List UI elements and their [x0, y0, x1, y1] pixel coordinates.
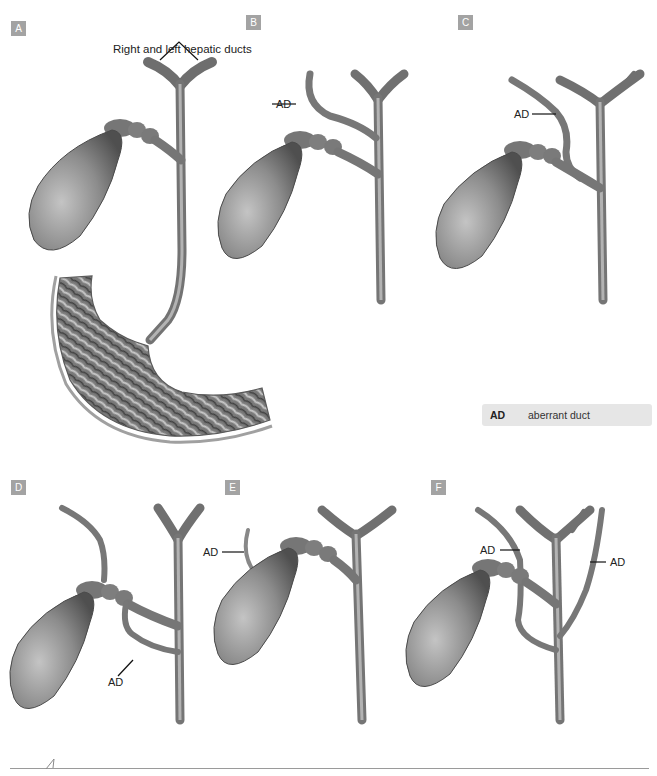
- ad-label-c: AD: [514, 108, 529, 120]
- footer-tick-mark: [44, 756, 64, 770]
- panel-label-a: A: [11, 21, 26, 36]
- leader-line: [118, 660, 133, 676]
- ad-label-f-left: AD: [480, 544, 495, 556]
- ad-label-e: AD: [203, 546, 218, 558]
- panel-c-art: [436, 74, 640, 300]
- anatomy-illustration: [0, 0, 657, 776]
- ad-label-b: AD: [276, 98, 291, 110]
- gallbladder: [10, 592, 94, 709]
- panel-f-art: [406, 510, 602, 720]
- ad-label-d: AD: [108, 676, 123, 688]
- hepatic-ducts-caption: Right and left hepatic ducts: [113, 43, 252, 55]
- panel-b-art: [218, 74, 404, 300]
- gallbladder: [29, 130, 122, 250]
- gallbladder: [406, 570, 490, 687]
- ad-label-f-right: AD: [610, 556, 625, 568]
- legend-abbr: AD: [490, 404, 505, 426]
- panel-label-b: B: [246, 15, 261, 30]
- gallbladder: [218, 142, 302, 259]
- panel-label-f: F: [431, 480, 446, 495]
- legend: AD aberrant duct: [482, 404, 652, 426]
- legend-description: aberrant duct: [528, 404, 590, 426]
- panel-label-c: C: [458, 15, 473, 30]
- panel-e-art: [214, 510, 392, 720]
- panel-label-e: E: [225, 480, 240, 495]
- gallbladder: [436, 152, 522, 269]
- panel-label-d: D: [11, 480, 26, 495]
- gallbladder: [214, 548, 298, 665]
- panel-d-art: [10, 508, 200, 720]
- footer-divider: [10, 768, 649, 769]
